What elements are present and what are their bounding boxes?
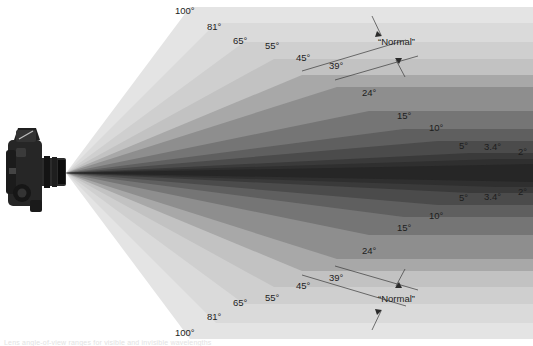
- angle-label-bottom-24deg: 24°: [362, 245, 377, 256]
- angle-label-top-5deg: 5°: [459, 140, 468, 151]
- angle-of-view-diagram: “Normal” “Normal” 100°100°81°81°65°65°55…: [0, 0, 533, 346]
- angle-label-bottom-2deg: 2°: [518, 186, 527, 197]
- angle-label-bottom-15deg: 15°: [397, 222, 412, 233]
- angle-label-bottom-45deg: 45°: [296, 280, 311, 291]
- angle-label-bottom-65deg: 65°: [233, 297, 248, 308]
- angle-label-top-39deg: 39°: [329, 60, 344, 71]
- angle-label-bottom-3-4deg: 3.4°: [484, 191, 501, 202]
- angle-label-bottom-81deg: 81°: [207, 311, 222, 322]
- angle-label-top-24deg: 24°: [362, 87, 377, 98]
- angle-label-bottom-39deg: 39°: [329, 272, 344, 283]
- angle-label-top-15deg: 15°: [397, 110, 412, 121]
- angle-label-top-10deg: 10°: [429, 122, 444, 133]
- angle-label-bottom-55deg: 55°: [265, 292, 280, 303]
- angle-label-top-100deg: 100°: [175, 5, 195, 16]
- angle-label-bottom-100deg: 100°: [175, 327, 195, 338]
- angle-label-top-3-4deg: 3.4°: [484, 141, 501, 152]
- figure-caption: Lens angle-of-view ranges for visible an…: [4, 339, 212, 346]
- angle-label-bottom-5deg: 5°: [459, 192, 468, 203]
- angle-label-top-65deg: 65°: [233, 35, 248, 46]
- angle-label-top-2deg: 2°: [518, 146, 527, 157]
- normal-label-top: “Normal”: [378, 36, 415, 47]
- normal-label-bottom: “Normal”: [378, 293, 415, 304]
- angle-label-bottom-10deg: 10°: [429, 210, 444, 221]
- angle-label-top-45deg: 45°: [296, 52, 311, 63]
- angle-label-top-81deg: 81°: [207, 21, 222, 32]
- angle-label-top-55deg: 55°: [265, 40, 280, 51]
